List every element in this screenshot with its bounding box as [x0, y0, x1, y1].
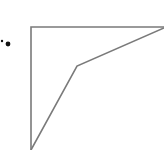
label-marker — [1, 40, 11, 47]
frame-lines — [31, 27, 164, 150]
bent-line — [31, 28, 164, 150]
small-dot — [1, 40, 3, 42]
diagram-canvas — [0, 0, 164, 150]
large-dot — [6, 42, 11, 47]
